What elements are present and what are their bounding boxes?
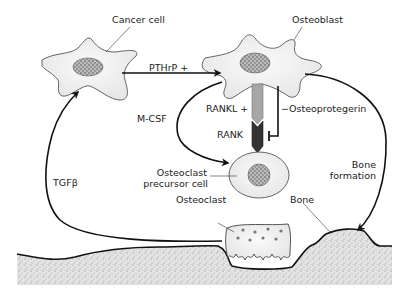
- osteoclast-cell: [226, 224, 291, 260]
- label-cancer-cell: Cancer cell: [112, 14, 165, 25]
- osteoprotegerin-inhibitor: [269, 86, 278, 141]
- label-osteoprotegerin: Osteoprotegerin: [289, 103, 366, 114]
- label-precursor-line2: precursor cell: [140, 178, 208, 189]
- bone: [17, 229, 392, 285]
- label-osteoclast: Osteoclast: [176, 194, 226, 205]
- label-tgfb: TGFβ: [53, 177, 78, 188]
- label-precursor-line1: Osteoclast: [150, 167, 207, 178]
- label-bone: Bone: [290, 194, 314, 205]
- osteoclast-precursor-cell: [229, 152, 289, 198]
- cancer-cell: [42, 38, 137, 100]
- label-osteoblast: Osteoblast: [292, 14, 343, 25]
- label-bone-formation-line2: formation: [325, 170, 376, 181]
- label-mcsf: M-CSF: [137, 113, 167, 124]
- bone-formation-arrow: [305, 74, 386, 230]
- label-pthrp: PTHrP +: [149, 62, 188, 73]
- label-rank: RANK: [217, 129, 243, 140]
- label-osteoprotegerin-sign: −: [281, 103, 289, 114]
- bone-metastasis-diagram: [0, 0, 407, 297]
- label-rankl: RANKL +: [206, 103, 248, 114]
- rankl-rank-complex: [252, 84, 263, 153]
- label-bone-formation-line1: Bone: [330, 159, 376, 170]
- mcsf-arrow: [177, 82, 228, 163]
